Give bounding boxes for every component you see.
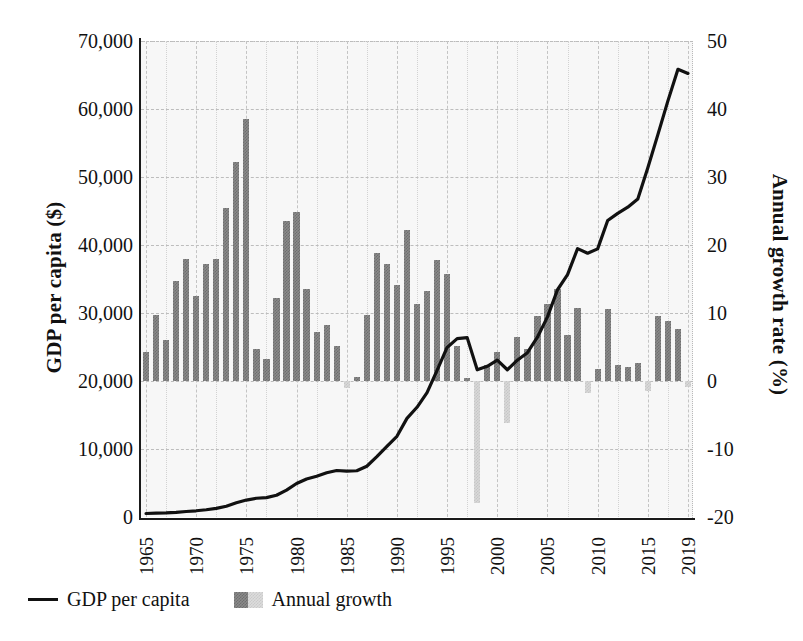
y-axis-right-title: Annual growth rate (%) bbox=[767, 135, 792, 435]
legend-label-growth: Annual growth bbox=[272, 588, 393, 611]
y-tick-label-right: 20 bbox=[707, 235, 767, 255]
x-tick-label: 1965 bbox=[137, 537, 156, 575]
x-tick-label: 1985 bbox=[338, 537, 357, 575]
y-tick-label-left: 30,000 bbox=[43, 303, 133, 323]
x-tick-label: 2019 bbox=[679, 537, 698, 575]
legend-swatch-icon bbox=[234, 592, 263, 608]
line-series-gdp-per-capita bbox=[141, 41, 693, 517]
x-tick-label: 2015 bbox=[639, 537, 658, 575]
y-tick-label-right: -10 bbox=[707, 439, 767, 459]
x-tick-label: 1975 bbox=[237, 537, 256, 575]
x-tick-label: 2000 bbox=[488, 537, 507, 575]
x-axis-line bbox=[139, 518, 695, 520]
chart-root: GDP per capita ($) Annual growth rate (%… bbox=[0, 0, 803, 641]
y-tick-label-left: 10,000 bbox=[43, 439, 133, 459]
y-tick-label-left: 40,000 bbox=[43, 235, 133, 255]
x-tick-label: 2005 bbox=[538, 537, 557, 575]
y-tick-label-right: 40 bbox=[707, 99, 767, 119]
legend-label-gdp: GDP per capita bbox=[67, 588, 190, 611]
legend-line-icon bbox=[28, 598, 58, 601]
x-tick-label: 1970 bbox=[187, 537, 206, 575]
plot-area bbox=[141, 41, 693, 517]
y-tick-label-left: 70,000 bbox=[43, 31, 133, 51]
y-tick-label-left: 50,000 bbox=[43, 167, 133, 187]
x-tick-label: 1990 bbox=[388, 537, 407, 575]
x-tick-label: 2010 bbox=[589, 537, 608, 575]
x-tick-label: 1980 bbox=[288, 537, 307, 575]
y-tick-label-right: 50 bbox=[707, 31, 767, 51]
y-tick-label-right: 10 bbox=[707, 303, 767, 323]
y-tick-label-left: 20,000 bbox=[43, 371, 133, 391]
plot-right-border bbox=[692, 41, 694, 518]
y-tick-label-right: 30 bbox=[707, 167, 767, 187]
y-tick-label-left: 60,000 bbox=[43, 99, 133, 119]
x-tick-label: 1995 bbox=[438, 537, 457, 575]
y-tick-label-left: 0 bbox=[43, 507, 133, 527]
y-tick-label-right: 0 bbox=[707, 371, 767, 391]
chart-legend: GDP per capita Annual growth bbox=[28, 588, 392, 611]
y-tick-label-right: -20 bbox=[707, 507, 767, 527]
